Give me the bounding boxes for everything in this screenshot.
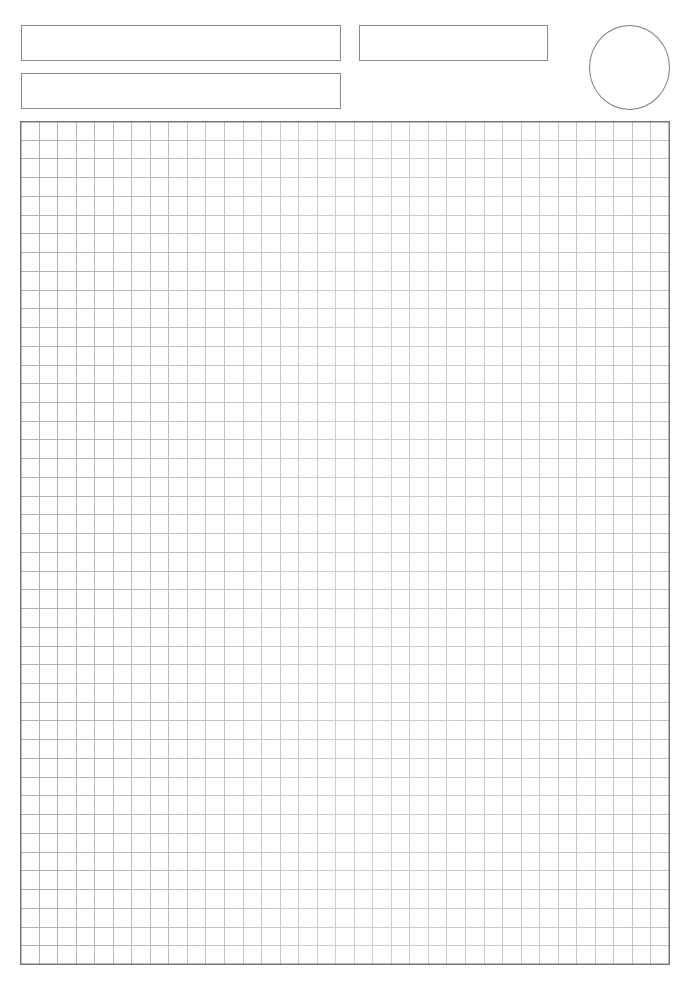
header-field-2[interactable] [21,73,341,109]
grid-border [21,122,670,965]
grid-lines [20,121,670,965]
grid-inner-lines [20,121,669,964]
circle-mark-field[interactable] [589,25,670,110]
header-field-1[interactable] [21,25,341,61]
header-field-3[interactable] [359,25,548,61]
grid-paper [20,121,669,964]
